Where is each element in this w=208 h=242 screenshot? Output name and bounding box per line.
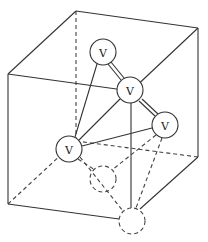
hidden-bond-a4-a6	[80, 157, 123, 211]
right-bottom-depth-edge	[140, 157, 198, 209]
atom-label: V	[125, 85, 135, 98]
front-top-edge	[8, 74, 131, 91]
right-top-depth-edge	[131, 28, 198, 91]
hidden-atom-circle	[90, 166, 116, 192]
atom-label: V	[98, 47, 108, 60]
hidden-atom-circle-bottom	[119, 208, 145, 234]
front-bottom-edge	[8, 204, 119, 219]
bond-a4-a3	[82, 128, 152, 146]
crystal-cube-diagram: V V V V	[0, 0, 208, 242]
back-top-edge	[76, 11, 198, 28]
hidden-bond-a3-a5	[112, 135, 156, 170]
atom-label: V	[160, 120, 170, 133]
left-top-depth-edge	[8, 11, 76, 74]
atom-label: V	[64, 144, 74, 157]
